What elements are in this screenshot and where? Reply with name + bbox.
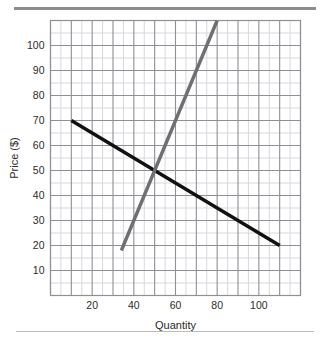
ytick-label: 90: [33, 64, 45, 76]
x-axis-title: Quantity: [155, 319, 196, 331]
ytick-label: 100: [27, 39, 45, 51]
chart-plot-wrapper: 20406080100102030405060708090100Quantity…: [0, 0, 330, 347]
y-axis-title: Price ($): [8, 137, 20, 179]
xtick-label: 40: [128, 299, 140, 311]
xtick-label: 20: [86, 299, 98, 311]
bottom-divider-rule: [16, 331, 314, 332]
xtick-label: 100: [250, 299, 268, 311]
figure-container: 20406080100102030405060708090100Quantity…: [0, 0, 330, 347]
ytick-label: 20: [33, 239, 45, 251]
ytick-label: 10: [33, 264, 45, 276]
xtick-label: 80: [211, 299, 223, 311]
ytick-label: 50: [33, 164, 45, 176]
ytick-label: 30: [33, 214, 45, 226]
ytick-label: 70: [33, 114, 45, 126]
supply-demand-chart: 20406080100102030405060708090100Quantity…: [0, 0, 330, 347]
xtick-label: 60: [170, 299, 182, 311]
ytick-label: 80: [33, 89, 45, 101]
ytick-label: 60: [33, 139, 45, 151]
series-line-supply: [121, 21, 217, 251]
ytick-label: 40: [33, 189, 45, 201]
